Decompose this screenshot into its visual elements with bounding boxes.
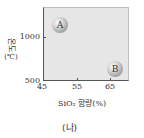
y-axis-unit: (℃): [4, 53, 18, 62]
x-tick-mark-55: [77, 78, 78, 81]
x-tick-55: 55: [67, 82, 87, 91]
y-axis-label-text: 온도: [7, 38, 16, 52]
point-b-marker: B: [107, 61, 123, 77]
x-tick-mark-65: [110, 78, 111, 81]
x-tick-45: 45: [32, 82, 52, 91]
point-b-label: B: [112, 64, 119, 74]
point-a-label: A: [57, 20, 64, 30]
plot-area: A B: [43, 7, 129, 81]
x-axis-label: SiO₂ 함량(%): [58, 97, 106, 108]
point-a-marker: A: [52, 17, 68, 33]
figure-caption: (나): [62, 121, 77, 134]
y-axis-label: 온도 (℃): [4, 40, 18, 62]
x-tick-65: 65: [100, 82, 120, 91]
y-tick-mark-1000: [43, 37, 46, 38]
